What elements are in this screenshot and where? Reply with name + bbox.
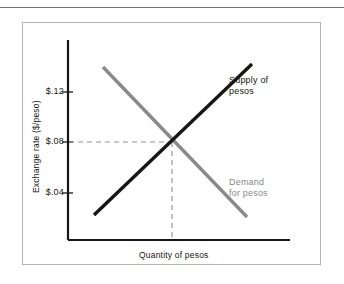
- x-axis-title: Quantity of pesos: [139, 250, 209, 260]
- y-tick-label-12: $.12: [34, 86, 64, 97]
- demand-label-line1: Demand: [229, 177, 264, 188]
- demand-label-line2: for pesos: [229, 188, 268, 199]
- supply-label-line2: pesos: [229, 86, 254, 97]
- y-axis-title: Exchange rate ($/peso): [31, 100, 41, 193]
- supply-label-line1: Supply of: [229, 75, 268, 86]
- figure-page: $.12 $.08 $.04 Exchange rate ($/peso) Qu…: [0, 0, 344, 284]
